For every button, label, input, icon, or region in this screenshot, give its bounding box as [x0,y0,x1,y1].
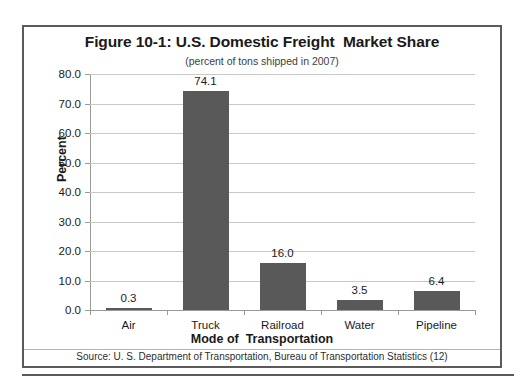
chart-title: Figure 10-1: U.S. Domestic Freight Marke… [24,33,500,51]
bar-value-label: 0.3 [121,292,137,304]
x-tick-mark [90,310,91,315]
y-tick-label: 20.0 [59,245,81,257]
bar[interactable] [414,291,460,310]
bar-slot: 16.0Railroad [244,74,321,310]
bar-value-label: 6.4 [429,275,445,287]
bar[interactable] [183,91,229,310]
y-tick-label: 60.0 [59,127,81,139]
source-note: Source: U. S. Department of Transportati… [24,351,500,362]
source-separator [24,349,500,350]
x-tick-mark [167,310,168,315]
bar[interactable] [337,300,383,310]
x-axis-title: Mode of Transportation [24,332,500,346]
x-category-label: Pipeline [416,319,457,331]
y-tick-label: 50.0 [59,157,81,169]
x-category-label: Truck [191,319,219,331]
x-category-label: Water [344,319,374,331]
bar-value-label: 16.0 [271,247,293,259]
x-tick-mark [475,310,476,315]
bar-slot: 74.1Truck [167,74,244,310]
bar-slot: 6.4Pipeline [398,74,475,310]
x-category-label: Railroad [261,319,304,331]
x-category-label: Air [121,319,135,331]
y-tick-label: 70.0 [59,98,81,110]
plot-area: 80.070.060.050.040.030.020.010.00.0 0.3A… [90,74,475,310]
x-tick-mark [244,310,245,315]
gridline [90,310,475,311]
x-tick-mark [321,310,322,315]
y-tick-label: 40.0 [59,186,81,198]
y-tick-label: 80.0 [59,68,81,80]
y-tick-label: 10.0 [59,275,81,287]
bar[interactable] [260,263,306,310]
bar[interactable] [106,308,152,310]
y-tick-label: 0.0 [65,304,81,316]
figure-frame: Figure 10-1: U.S. Domestic Freight Marke… [22,25,502,368]
bar-slot: 0.3Air [90,74,167,310]
chart-subtitle: (percent of tons shipped in 2007) [24,55,500,67]
bar-value-label: 74.1 [194,75,216,87]
page-bottom-rule [22,374,514,376]
bar-slot: 3.5Water [321,74,398,310]
x-tick-mark [398,310,399,315]
y-tick-label: 30.0 [59,216,81,228]
bar-value-label: 3.5 [352,284,368,296]
